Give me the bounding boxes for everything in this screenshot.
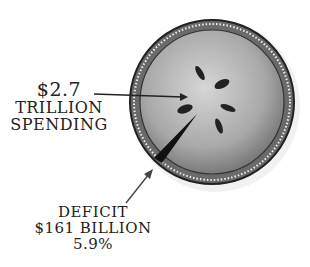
- deficit-percent: 5.9%: [28, 237, 158, 253]
- spending-word: SPENDING: [4, 117, 114, 134]
- deficit-label: DEFICIT $161 BILLION 5.9%: [28, 205, 158, 252]
- spending-amount: $2.7: [4, 80, 114, 100]
- spending-label: $2.7 TRILLION SPENDING: [4, 80, 114, 134]
